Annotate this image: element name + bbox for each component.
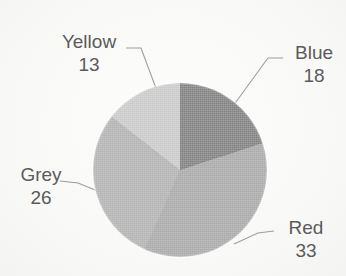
slice-label-yellow-value: 13 <box>47 53 131 76</box>
slice-label-grey-name: Grey <box>20 164 61 185</box>
slice-label-red-value: 33 <box>277 239 335 262</box>
slice-label-grey-value: 26 <box>8 186 74 209</box>
slice-label-yellow-name: Yellow <box>62 31 116 52</box>
slice-label-red-name: Red <box>289 217 324 238</box>
slice-label-blue-name: Blue <box>295 42 333 63</box>
slice-label-yellow: Yellow 13 <box>47 30 131 76</box>
chart-title-cropped <box>0 0 346 9</box>
pie-chart-graphic <box>93 83 267 257</box>
pie-chart-screenshot: Yellow 13 Blue 18 Grey 26 Red 33 <box>0 0 346 276</box>
slice-label-red: Red 33 <box>277 216 335 262</box>
slice-label-blue: Blue 18 <box>286 41 342 87</box>
slice-label-grey: Grey 26 <box>8 163 74 209</box>
slice-label-blue-value: 18 <box>286 64 342 87</box>
pie-edge-highlight <box>92 82 268 258</box>
